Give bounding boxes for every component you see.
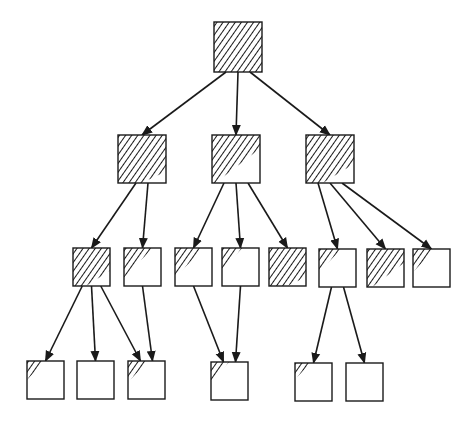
tree-node-L2-3	[175, 248, 212, 286]
tree-node-L3-1	[27, 361, 64, 399]
edge-arrow-L2-6-to-L3-5	[314, 287, 332, 363]
edge-arrow-root-to-L1-c	[250, 72, 330, 135]
tree-node-L2-8	[413, 249, 450, 287]
tree-node-L3-5	[295, 363, 332, 401]
edge-arrow-L1-c-to-L2-7	[330, 183, 386, 249]
tree-node-root	[214, 22, 262, 72]
edge-arrow-L2-3-to-L3-4	[194, 286, 224, 362]
edge-arrow-L2-1-to-L3-3	[101, 286, 141, 361]
tree-node-L1-b	[212, 135, 260, 183]
tree-node-L2-7	[367, 249, 404, 287]
tree-node-L2-2	[124, 248, 161, 286]
edge-arrow-L1-c-to-L2-6	[318, 183, 338, 249]
edge-arrow-L2-2-to-L3-3	[143, 286, 153, 361]
edge-arrow-L1-b-to-L2-3	[194, 183, 225, 248]
tree-node-L3-3	[128, 361, 165, 399]
edge-arrow-L1-b-to-L2-5	[248, 183, 288, 248]
tree-node-L2-4	[222, 248, 259, 286]
edge-arrow-root-to-L1-b	[236, 72, 238, 135]
edge-arrow-L2-1-to-L3-1	[46, 286, 83, 361]
edge-arrow-L1-a-to-L2-1	[92, 183, 137, 248]
tree-node-L1-c	[306, 135, 354, 183]
tree-node-L3-6	[346, 363, 383, 401]
tree-node-L2-1	[73, 248, 110, 286]
edges-layer	[46, 72, 432, 363]
tree-node-L3-2	[77, 361, 114, 399]
tree-node-L1-a	[118, 135, 166, 183]
tree-node-L3-4	[211, 362, 248, 400]
edge-arrow-L1-c-to-L2-8	[342, 183, 432, 249]
edge-arrow-L2-4-to-L3-4	[236, 286, 241, 362]
edge-arrow-root-to-L1-a	[142, 72, 226, 135]
edge-arrow-L1-a-to-L2-2	[143, 183, 149, 248]
edge-arrow-L2-6-to-L3-6	[344, 287, 365, 363]
tree-node-L2-6	[319, 249, 356, 287]
tree-node-L2-5	[269, 248, 306, 286]
edge-arrow-L1-b-to-L2-4	[236, 183, 241, 248]
edge-arrow-L2-1-to-L3-2	[92, 286, 96, 361]
tree-diagram	[0, 0, 474, 428]
hatch-fill	[214, 22, 262, 72]
